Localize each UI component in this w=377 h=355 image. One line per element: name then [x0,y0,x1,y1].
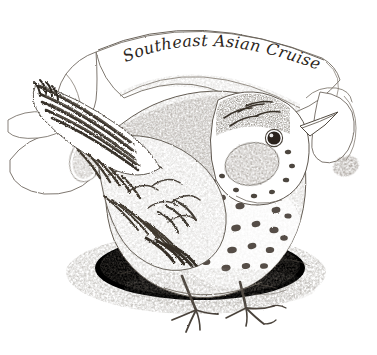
illustration-canvas: Pencil sketch of a speckled bird standin… [0,0,377,355]
bird-banner-illustration: Southeast Asian Cruise [0,0,377,355]
bird-eye [265,129,282,146]
foreground-ground-speckle [124,268,316,308]
